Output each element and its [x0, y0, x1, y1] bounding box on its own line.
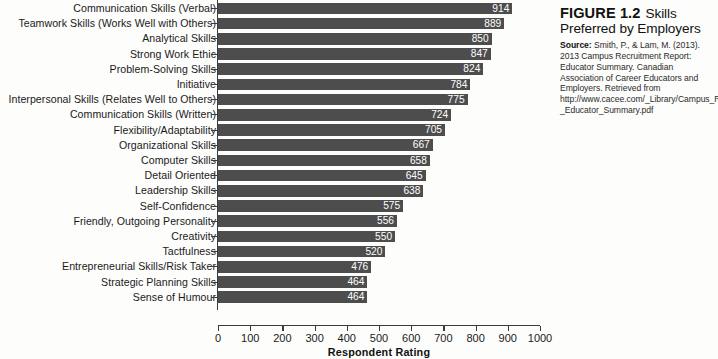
bar-value-label: 889: [218, 18, 504, 30]
bar-category-label: Strategic Planning Skills: [101, 275, 216, 290]
x-axis-tick-label: 800: [466, 332, 484, 344]
bar-value-label: 464: [218, 291, 367, 303]
bar-category-label: Organizational Skills: [119, 138, 216, 153]
bar-category-label: Computer Skills: [141, 153, 216, 168]
bar-category-label: Sense of Humour: [133, 290, 216, 305]
bar-value-label: 850: [218, 33, 492, 45]
x-axis-tick-label: 300: [305, 332, 323, 344]
source-body: Smith, P., & Lam, M. (2013). 2013 Campus…: [560, 40, 718, 115]
bar-category-label: Leadership Skills: [135, 183, 216, 198]
bar-value-label: 784: [218, 79, 470, 91]
bar-row: Tactfulness520: [0, 244, 560, 259]
bar-row: Organizational Skills667: [0, 138, 560, 153]
x-axis-tick-label: 0: [215, 332, 221, 344]
bar-row: Computer Skills658: [0, 153, 560, 168]
bar-value-label: 476: [218, 261, 371, 273]
x-axis-tick: [315, 326, 316, 331]
bar-value-label: 638: [218, 185, 423, 197]
bar-category-label: Problem-Solving Skills: [110, 62, 216, 77]
figure-caption: FIGURE 1.2Skills Preferred by Employers …: [560, 6, 718, 359]
bar-chart: Communication Skills (Verbal)914Teamwork…: [0, 0, 560, 359]
bar-row: Problem-Solving Skills824: [0, 62, 560, 77]
bar-category-label: Flexibility/Adaptability: [114, 123, 216, 138]
bar-row: Detail Oriented645: [0, 168, 560, 183]
x-axis-tick-label: 200: [273, 332, 291, 344]
bar-value-label: 775: [218, 94, 468, 106]
bar-row: Creativity550: [0, 229, 560, 244]
x-axis-tick: [443, 326, 444, 331]
bar-row: Strategic Planning Skills464: [0, 275, 560, 290]
x-axis-tick: [476, 326, 477, 331]
bar-value-label: 658: [218, 155, 430, 167]
caption-title: FIGURE 1.2Skills Preferred by Employers: [560, 6, 716, 36]
bar-row: Initiative784: [0, 77, 560, 92]
x-axis-tick: [218, 326, 219, 331]
x-axis-tick: [379, 326, 380, 331]
bar-value-label: 847: [218, 48, 491, 60]
bar-category-label: Communication Skills (Written): [70, 107, 216, 122]
bar-row: Interpersonal Skills (Relates Well to Ot…: [0, 92, 560, 107]
bar-value-label: 724: [218, 109, 451, 121]
bar-value-label: 575: [218, 200, 403, 212]
x-axis-tick-label: 500: [370, 332, 388, 344]
bar-row: Flexibility/Adaptability705: [0, 123, 560, 138]
x-axis-tick: [411, 326, 412, 331]
bar-row: Communication Skills (Written)724: [0, 107, 560, 122]
bar-row: Friendly, Outgoing Personality556: [0, 214, 560, 229]
source-label: Source:: [560, 40, 592, 50]
bar-value-label: 645: [218, 170, 426, 182]
bar-row: Sense of Humour464: [0, 290, 560, 305]
bar-category-label: Interpersonal Skills (Relates Well to Ot…: [8, 92, 216, 107]
bar-category-label: Communication Skills (Verbal): [73, 1, 216, 16]
bar-category-label: Friendly, Outgoing Personality: [73, 214, 216, 229]
x-axis-tick: [508, 326, 509, 331]
bar-row: Strong Work Ethic847: [0, 47, 560, 62]
bar-row: Entrepreneurial Skills/Risk Taker476: [0, 259, 560, 274]
bar-row: Self-Confidence575: [0, 199, 560, 214]
bar-value-label: 705: [218, 124, 445, 136]
figure-number: FIGURE 1.2: [560, 5, 640, 21]
x-axis-tick: [250, 326, 251, 331]
bar-category-label: Self-Confidence: [140, 199, 216, 214]
x-axis-title: Respondent Rating: [218, 346, 540, 358]
x-axis-tick-label: 400: [338, 332, 356, 344]
bar-value-label: 824: [218, 63, 483, 75]
x-axis-tick-label: 700: [434, 332, 452, 344]
bar-row: Teamwork Skills (Works Well with Others)…: [0, 16, 560, 31]
bar-value-label: 520: [218, 246, 385, 258]
x-axis-tick-label: 100: [241, 332, 259, 344]
bar-category-label: Creativity: [171, 229, 216, 244]
x-axis-tick-label: 900: [499, 332, 517, 344]
bar-row: Analytical Skills850: [0, 31, 560, 46]
bar-row: Leadership Skills638: [0, 183, 560, 198]
bar-row: Communication Skills (Verbal)914: [0, 1, 560, 16]
x-axis-tick-label: 1000: [528, 332, 552, 344]
bar-value-label: 914: [218, 3, 512, 15]
bar-category-label: Strong Work Ethic: [130, 47, 216, 62]
bar-value-label: 556: [218, 215, 397, 227]
bar-category-label: Detail Oriented: [145, 168, 216, 183]
caption-source: Source: Smith, P., & Lam, M. (2013). 201…: [560, 40, 716, 116]
bar-value-label: 550: [218, 231, 395, 243]
y-axis-line: [217, 0, 218, 310]
bar-value-label: 464: [218, 276, 367, 288]
x-axis-tick: [540, 326, 541, 331]
x-axis-tick-label: 600: [402, 332, 420, 344]
x-axis-tick: [347, 326, 348, 331]
bar-category-label: Tactfulness: [162, 244, 216, 259]
x-axis-tick: [282, 326, 283, 331]
bar-category-label: Entrepreneurial Skills/Risk Taker: [62, 259, 216, 274]
bar-category-label: Analytical Skills: [142, 31, 216, 46]
figure-container: Communication Skills (Verbal)914Teamwork…: [0, 0, 718, 359]
bar-value-label: 667: [218, 139, 433, 151]
bar-category-label: Teamwork Skills (Works Well with Others): [18, 16, 216, 31]
